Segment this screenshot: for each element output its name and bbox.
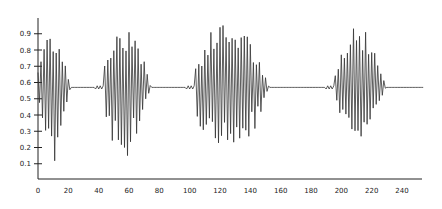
- y-tick-label: 0.4: [20, 112, 32, 120]
- x-tick-label: 220: [365, 187, 378, 195]
- x-axis-ticks: 020406080100120140160180200220240: [36, 187, 409, 195]
- signal-chart: 0.10.20.30.40.50.60.70.80.9 020406080100…: [0, 0, 442, 209]
- signal-line: [38, 26, 423, 161]
- y-tick-label: 0.6: [20, 79, 32, 87]
- x-tick-label: 100: [183, 187, 196, 195]
- x-tick-label: 140: [244, 187, 257, 195]
- y-tick-label: 0.9: [20, 30, 31, 38]
- y-tick-label: 0.2: [20, 144, 31, 152]
- y-tick-label: 0.8: [20, 47, 31, 55]
- y-tick-label: 0.1: [20, 160, 31, 168]
- x-tick-label: 120: [213, 187, 226, 195]
- x-tick-label: 60: [125, 187, 134, 195]
- x-tick-label: 40: [94, 187, 103, 195]
- x-tick-label: 80: [155, 187, 164, 195]
- x-tick-label: 0: [36, 187, 40, 195]
- x-tick-label: 200: [335, 187, 348, 195]
- x-tick-label: 20: [64, 187, 73, 195]
- y-tick-label: 0.3: [20, 128, 31, 136]
- x-tick-label: 180: [304, 187, 317, 195]
- y-tick-label: 0.7: [20, 63, 31, 71]
- y-tick-label: 0.5: [20, 95, 31, 103]
- x-tick-label: 240: [395, 187, 408, 195]
- x-tick-label: 160: [274, 187, 287, 195]
- y-axis-ticks: 0.10.20.30.40.50.60.70.80.9: [20, 30, 42, 168]
